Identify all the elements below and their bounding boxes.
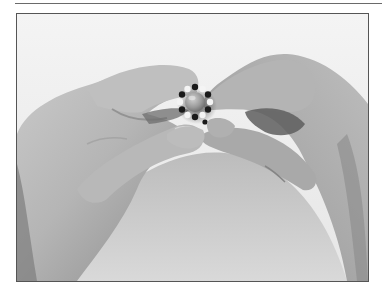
top-divider-rule xyxy=(15,3,382,4)
photo-frame xyxy=(16,13,369,282)
center-stone xyxy=(185,92,205,112)
hands-holding-ring-photo xyxy=(17,14,368,281)
